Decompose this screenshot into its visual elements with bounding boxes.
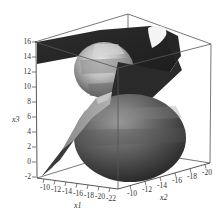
x3-tick-label: 8 bbox=[27, 97, 31, 106]
x3-tick-label: 6 bbox=[27, 112, 31, 121]
x3-tick-label: 14 bbox=[24, 52, 32, 61]
x1-tick-label: -18 bbox=[84, 191, 94, 200]
x1-axis-title: x1 bbox=[73, 201, 82, 210]
x3-tick-label: 12 bbox=[24, 67, 32, 76]
x3-tick-label: 2 bbox=[27, 142, 31, 151]
x1-axis: -10 -12 -14 -16 -18 -20 -22 x1 bbox=[37, 178, 118, 210]
x1-tick-label: -10 bbox=[40, 183, 50, 192]
x1-tick-label: -22 bbox=[106, 194, 116, 203]
x3-tick-label: -2 bbox=[25, 172, 31, 181]
x1-tick-label: -14 bbox=[62, 187, 72, 196]
x3-tick-label: 16 bbox=[24, 37, 32, 46]
surface-plot-3d[interactable]: 16 14 12 10 8 6 4 2 0 -2 x3 -10 -12 -14 … bbox=[0, 0, 224, 210]
x2-tick-label: -10 bbox=[127, 189, 137, 198]
x3-tick-label: 4 bbox=[27, 127, 31, 136]
x2-tick-label: -12 bbox=[142, 185, 152, 194]
x1-tick-label: -12 bbox=[51, 185, 61, 194]
x3-tick-label: 0 bbox=[27, 157, 31, 166]
x1-tick-label: -20 bbox=[95, 192, 105, 201]
x2-tick-label: -14 bbox=[157, 181, 167, 190]
x3-tick-label: 10 bbox=[24, 82, 32, 91]
x2-tick-label: -20 bbox=[202, 168, 212, 177]
x1-tick-label: -16 bbox=[73, 189, 83, 198]
x2-tick-label: -18 bbox=[187, 172, 197, 181]
x3-axis: 16 14 12 10 8 6 4 2 0 -2 x3 bbox=[11, 37, 37, 181]
x2-axis-title: x2 bbox=[159, 193, 168, 202]
x2-tick-label: -16 bbox=[172, 176, 182, 185]
x3-axis-title: x3 bbox=[11, 115, 20, 124]
